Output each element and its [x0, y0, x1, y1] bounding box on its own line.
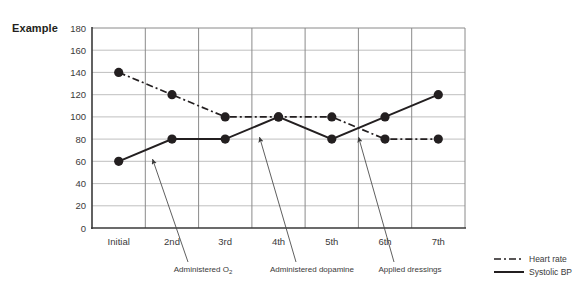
y-tick-60: 60	[75, 156, 86, 167]
chart-container: Example 180	[0, 0, 587, 287]
y-tick-80: 80	[75, 134, 86, 145]
data-point	[221, 135, 230, 144]
data-point	[434, 135, 443, 144]
data-point	[274, 112, 283, 121]
y-tick-20: 20	[75, 200, 86, 211]
y-tick-180: 180	[70, 23, 86, 34]
annotation-label-dopamine: Administered dopamine	[270, 265, 355, 274]
x-tick-5th: 5th	[325, 236, 338, 247]
data-point	[167, 135, 176, 144]
x-tick-initial: Initial	[108, 236, 130, 247]
data-point	[167, 90, 176, 99]
plot-background	[92, 28, 465, 228]
annotation-labels: Administered O2 Administered dopamine Ap…	[174, 265, 442, 275]
data-point	[327, 112, 336, 121]
data-point	[114, 157, 123, 166]
x-tick-3rd: 3rd	[218, 236, 232, 247]
x-tick-4th: 4th	[272, 236, 285, 247]
line-chart: 180 160 140 120 100 80 60 40 20 0 Initia…	[0, 0, 587, 287]
y-tick-0: 0	[81, 223, 86, 234]
data-point	[114, 68, 123, 77]
y-axis-ticks: 180 160 140 120 100 80 60 40 20 0	[70, 23, 86, 234]
x-axis-ticks: Initial 2nd 3rd 4th 5th 6th 7th	[108, 236, 445, 247]
annotation-label-dressings: Applied dressings	[378, 265, 441, 274]
y-tick-140: 140	[70, 67, 86, 78]
legend-label-heart-rate: Heart rate	[529, 254, 567, 264]
annotation-label-oxygen: Administered O2	[174, 265, 233, 275]
legend-label-systolic-bp: Systolic BP	[529, 267, 572, 277]
y-tick-100: 100	[70, 111, 86, 122]
data-point	[380, 112, 389, 121]
y-tick-160: 160	[70, 45, 86, 56]
data-point	[380, 135, 389, 144]
x-tick-2nd: 2nd	[164, 236, 180, 247]
x-tick-7th: 7th	[432, 236, 445, 247]
data-point	[434, 90, 443, 99]
y-tick-40: 40	[75, 178, 86, 189]
data-point	[221, 112, 230, 121]
y-tick-120: 120	[70, 89, 86, 100]
chart-legend: Heart rate Systolic BP	[494, 254, 572, 277]
data-point	[327, 135, 336, 144]
